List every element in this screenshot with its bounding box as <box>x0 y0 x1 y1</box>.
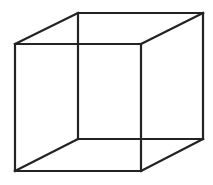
cube-wireframe <box>0 0 213 185</box>
edge-connector-top-left <box>15 13 78 44</box>
edge-connector-bottom-right <box>141 139 203 171</box>
edge-connector-top-right <box>141 13 203 44</box>
edge-connector-bottom-left <box>15 139 78 171</box>
cube-edges <box>15 13 203 171</box>
necker-cube-figure <box>0 0 213 185</box>
